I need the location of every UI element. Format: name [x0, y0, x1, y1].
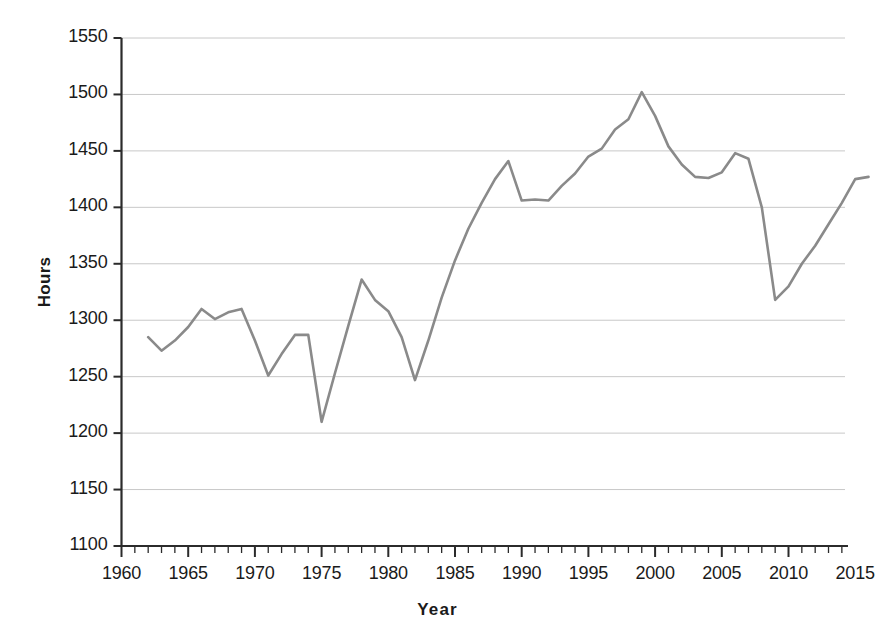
x-tick-label: 1975: [287, 563, 357, 584]
y-tick-label: 1200: [48, 421, 108, 442]
y-tick-label: 1300: [48, 308, 108, 329]
x-tick-label: 1980: [353, 563, 423, 584]
y-tick-label: 1550: [48, 26, 108, 47]
x-tick-label: 2015: [820, 563, 875, 584]
x-tick-label: 1965: [153, 563, 223, 584]
line-chart-plot: [0, 0, 875, 641]
gridlines-group: [122, 38, 846, 490]
x-tick-label: 2005: [687, 563, 757, 584]
x-axis-title: Year: [0, 600, 875, 620]
y-tick-label: 1350: [48, 252, 108, 273]
y-tick-label: 1150: [48, 478, 108, 499]
x-tick-label: 2000: [620, 563, 690, 584]
y-tick-label: 1400: [48, 195, 108, 216]
x-tick-label: 1990: [487, 563, 557, 584]
data-series-line: [148, 92, 868, 422]
y-tick-label: 1250: [48, 365, 108, 386]
x-tick-label: 1995: [553, 563, 623, 584]
chart-container: Hours Year 11001150120012501300135014001…: [0, 0, 875, 641]
x-tick-label: 1960: [87, 563, 157, 584]
x-tick-label: 1970: [220, 563, 290, 584]
y-tick-label: 1500: [48, 82, 108, 103]
x-tick-label: 2010: [754, 563, 824, 584]
y-tick-label: 1450: [48, 139, 108, 160]
x-tick-label: 1985: [420, 563, 490, 584]
x-axis-ticks: [122, 546, 842, 557]
y-tick-label: 1100: [48, 534, 108, 555]
y-axis-ticks: [114, 38, 122, 546]
